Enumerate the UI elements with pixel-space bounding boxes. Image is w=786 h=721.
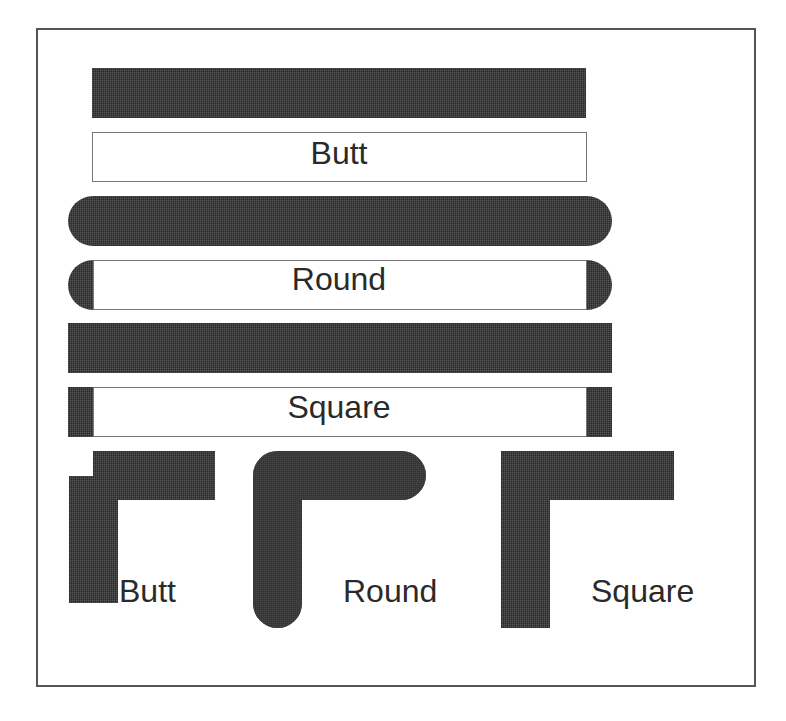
butt-corner-example: Butt <box>69 451 215 609</box>
round-cap-example: Round <box>68 196 612 310</box>
round-corner-example: Round <box>278 476 438 610</box>
square-cap-label: Square <box>287 389 390 425</box>
square-corner-vertical <box>501 451 550 628</box>
square-cap-example: Square <box>68 323 612 437</box>
square-corner-example: Square <box>501 451 694 628</box>
square-corner-label: Square <box>591 573 694 609</box>
butt-corner-label: Butt <box>119 573 176 609</box>
round-cap-left-end <box>68 260 93 310</box>
butt-cap-example: Butt <box>92 68 587 182</box>
butt-corner-vertical <box>69 476 118 603</box>
round-cap-right-end <box>587 260 612 310</box>
round-cap-label: Round <box>292 261 386 297</box>
line-cap-diagram: Butt Round Square Butt Round Square <box>0 0 786 721</box>
square-cap-stroke <box>68 323 612 373</box>
butt-cap-stroke <box>92 68 586 118</box>
round-corner-label: Round <box>343 573 437 609</box>
square-cap-right-end <box>587 387 612 437</box>
butt-cap-label: Butt <box>311 135 368 171</box>
round-cap-stroke <box>68 196 612 246</box>
square-cap-left-end <box>68 387 93 437</box>
